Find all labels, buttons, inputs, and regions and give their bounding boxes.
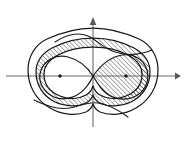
figure-canvas	[0, 0, 187, 145]
left-focus-dot	[58, 74, 61, 77]
right-focus-dot	[124, 74, 127, 77]
cassini-oval-figure	[0, 0, 187, 145]
